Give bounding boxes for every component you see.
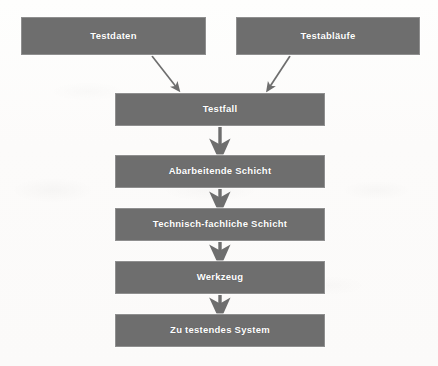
node-testdaten-label: Testdaten: [86, 31, 140, 41]
node-zu-testendes-system-label: Zu testendes System: [166, 325, 274, 335]
node-testablaeufe[interactable]: Testabläufe: [236, 17, 420, 55]
node-zu-testendes-system[interactable]: Zu testendes System: [115, 314, 325, 347]
connector-testablaeufe-to-testfall: [269, 56, 290, 88]
node-testablaeufe-label: Testabläufe: [297, 31, 360, 41]
node-technisch-fachliche-schicht-label: Technisch-fachliche Schicht: [149, 219, 291, 229]
node-abarbeitende-schicht[interactable]: Abarbeitende Schicht: [115, 155, 325, 188]
flowchart-diagram: Testdaten Testabläufe Testfall Abarbeite…: [0, 0, 438, 366]
node-technisch-fachliche-schicht[interactable]: Technisch-fachliche Schicht: [115, 208, 325, 241]
node-testdaten[interactable]: Testdaten: [21, 17, 206, 55]
connector-testdaten-to-testfall: [152, 56, 177, 88]
node-werkzeug-label: Werkzeug: [193, 272, 248, 282]
node-abarbeitende-schicht-label: Abarbeitende Schicht: [165, 166, 276, 176]
node-werkzeug[interactable]: Werkzeug: [115, 261, 325, 294]
node-testfall[interactable]: Testfall: [115, 93, 325, 126]
node-testfall-label: Testfall: [199, 104, 242, 114]
